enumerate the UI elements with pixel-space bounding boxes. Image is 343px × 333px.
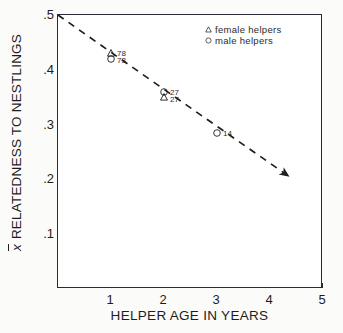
y-tick-label-3: .3 [30,116,54,131]
y-axis-title-xbar: x [9,243,24,251]
data-point-male-3 [213,128,222,137]
figure: x RELATEDNESS TO NESTLINGS .5 .4 .3 .2 .… [0,0,343,333]
x-tick-label-4: 4 [259,292,279,307]
y-tick-label-5: .5 [30,7,54,22]
x-tick-label-2: 2 [153,292,173,307]
x-tick-label-1: 1 [100,292,120,307]
legend: female helpers male helpers [202,24,282,46]
data-point-male-1 [107,54,116,63]
data-label-male-1: 73 [117,56,126,65]
y-tick-label-4: .4 [30,61,54,76]
trend-curve [58,15,323,289]
legend-label-male: male helpers [215,35,273,46]
legend-item-female: female helpers [202,24,282,35]
data-label-male-3: 14 [223,128,232,137]
x-axis-title: HELPER AGE IN YEARS [57,308,322,323]
y-axis-title-text: RELATEDNESS TO NESTLINGS [9,34,24,243]
plot-area: 78 73 27 27 14 female helpers [57,14,322,288]
data-label-female-2: 27 [170,94,179,103]
x-tick-label-3: 3 [206,292,226,307]
circle-icon [202,37,215,44]
triangle-icon [202,26,215,33]
legend-label-female: female helpers [215,24,282,35]
legend-item-male: male helpers [202,35,282,46]
plot-inner: 78 73 27 27 14 female helpers [58,15,321,287]
y-tick-label-1: .1 [30,226,54,241]
x-tick-label-5: 5 [312,292,332,307]
y-tick-label-2: .2 [30,171,54,186]
data-point-male-2 [160,87,169,96]
y-axis-title: x RELATEDNESS TO NESTLINGS [2,0,30,285]
